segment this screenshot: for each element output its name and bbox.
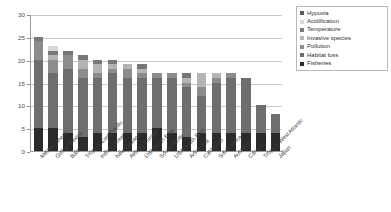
bar-segment — [197, 87, 207, 96]
bar-segment — [167, 78, 177, 133]
bar-segment — [212, 83, 222, 133]
y-tick-label: 30 — [3, 12, 25, 18]
legend: HypoxiaAcidificationTemperatureInvasive … — [296, 6, 388, 71]
y-tick-label: 15 — [3, 80, 25, 86]
legend-item: Hypoxia — [300, 9, 385, 17]
bar — [34, 37, 44, 151]
bar-segment — [34, 41, 44, 59]
legend-item: Acidification — [300, 17, 385, 25]
bar-segment — [197, 73, 207, 87]
bar-segment — [152, 78, 162, 128]
bar-segment — [48, 73, 58, 128]
y-tick-label: 25 — [3, 35, 25, 41]
bar-segment — [271, 114, 281, 132]
bar-segment — [78, 69, 88, 78]
bar-segment — [63, 55, 73, 69]
bar-segment — [34, 128, 44, 151]
y-tick-label: 10 — [3, 103, 25, 109]
legend-item: Pollution — [300, 43, 385, 51]
legend-label: Hypoxia — [307, 10, 329, 17]
bar-segment — [137, 78, 147, 133]
legend-label: Pollution — [307, 43, 330, 50]
bar-segment — [34, 60, 44, 129]
legend-item: Invasive species — [300, 34, 385, 42]
x-axis-labels: MediterraneanGulf of MexicoBalticTropica… — [30, 153, 282, 211]
bar-segment — [93, 78, 103, 133]
legend-swatch-icon — [300, 20, 304, 24]
bar-segment — [63, 69, 73, 133]
legend-item: Fisheries — [300, 59, 385, 67]
legend-item: Temperature — [300, 26, 385, 34]
bar-segment — [78, 78, 88, 137]
legend-label: Acidification — [307, 18, 339, 25]
legend-swatch-icon — [300, 53, 304, 57]
bar-segment — [123, 78, 133, 133]
y-tick-label: 20 — [3, 58, 25, 64]
bar-segment — [78, 60, 88, 69]
bar-segment — [182, 87, 192, 137]
legend-swatch-icon — [300, 45, 304, 49]
y-tick-label: 5 — [3, 126, 25, 132]
bar — [48, 46, 58, 151]
bar-segment — [226, 78, 236, 133]
bar-segment — [241, 78, 251, 133]
legend-swatch-icon — [300, 36, 304, 40]
legend-item: Habitat loss — [300, 51, 385, 59]
bar-segment — [48, 60, 58, 74]
legend-swatch-icon — [300, 28, 304, 32]
legend-swatch-icon — [300, 62, 304, 66]
y-tick-label: 0 — [3, 149, 25, 155]
legend-label: Invasive species — [307, 35, 351, 42]
legend-label: Habitat loss — [307, 52, 338, 59]
bar-segment — [123, 69, 133, 78]
bar-segment — [256, 105, 266, 132]
legend-label: Fisheries — [307, 60, 331, 67]
legend-swatch-icon — [300, 11, 304, 15]
legend-label: Temperature — [307, 26, 341, 33]
bar-segment — [93, 64, 103, 73]
stacked-bar-chart: 051015202530 MediterraneanGulf of Mexico… — [0, 0, 391, 212]
